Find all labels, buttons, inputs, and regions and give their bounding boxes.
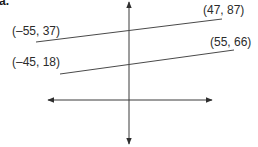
coordinate-diagram (0, 0, 258, 147)
point-label-lower-end: (55, 66) (210, 36, 251, 48)
point-label-upper-start: (–55, 37) (12, 25, 60, 37)
point-label-upper-end: (47, 87) (203, 4, 244, 16)
point-label-lower-start: (–45, 18) (12, 56, 60, 68)
lower-line (60, 50, 234, 74)
